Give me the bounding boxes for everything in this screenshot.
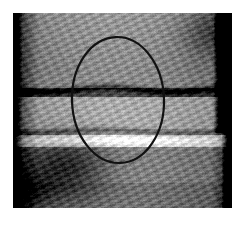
figure-root — [0, 0, 245, 225]
photograph-image — [13, 13, 232, 208]
photograph — [13, 13, 232, 208]
